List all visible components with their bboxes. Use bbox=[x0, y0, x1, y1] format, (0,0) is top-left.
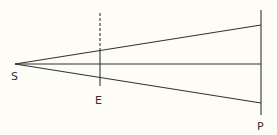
projection-diagram: S E P bbox=[0, 0, 277, 135]
label-p: P bbox=[257, 120, 264, 133]
lower-ray bbox=[15, 64, 261, 103]
label-s: S bbox=[11, 70, 18, 83]
diagram-canvas: S E P bbox=[0, 0, 277, 135]
upper-ray bbox=[15, 25, 261, 64]
label-e: E bbox=[95, 94, 102, 107]
